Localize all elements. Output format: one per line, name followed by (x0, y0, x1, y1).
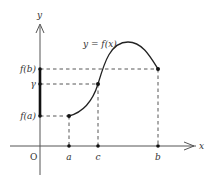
tick-fb (38, 67, 42, 71)
tick-c (96, 144, 100, 148)
fb-label: f(b) (19, 64, 37, 74)
tick-gamma (38, 82, 42, 86)
function-curve (69, 42, 158, 116)
a-label: a (66, 152, 71, 162)
point-b (156, 67, 160, 71)
x-axis-label: x (199, 141, 204, 151)
c-label: c (95, 152, 100, 162)
b-label: b (155, 152, 161, 162)
x-axis: x (10, 141, 204, 151)
tick-b (156, 144, 160, 148)
fa-label: f(a) (19, 111, 36, 121)
gamma-label: γ (31, 79, 37, 89)
tick-a (67, 144, 71, 148)
curve-label: y = f(x) (82, 39, 117, 49)
tick-fa (38, 114, 42, 118)
y-axis-label: y (36, 10, 43, 20)
origin-label: O (30, 152, 37, 162)
ivt-diagram: y x O y = f(x) f(b) γ f(a) a c b (0, 0, 210, 184)
point-c (96, 82, 100, 86)
point-a (67, 114, 71, 118)
